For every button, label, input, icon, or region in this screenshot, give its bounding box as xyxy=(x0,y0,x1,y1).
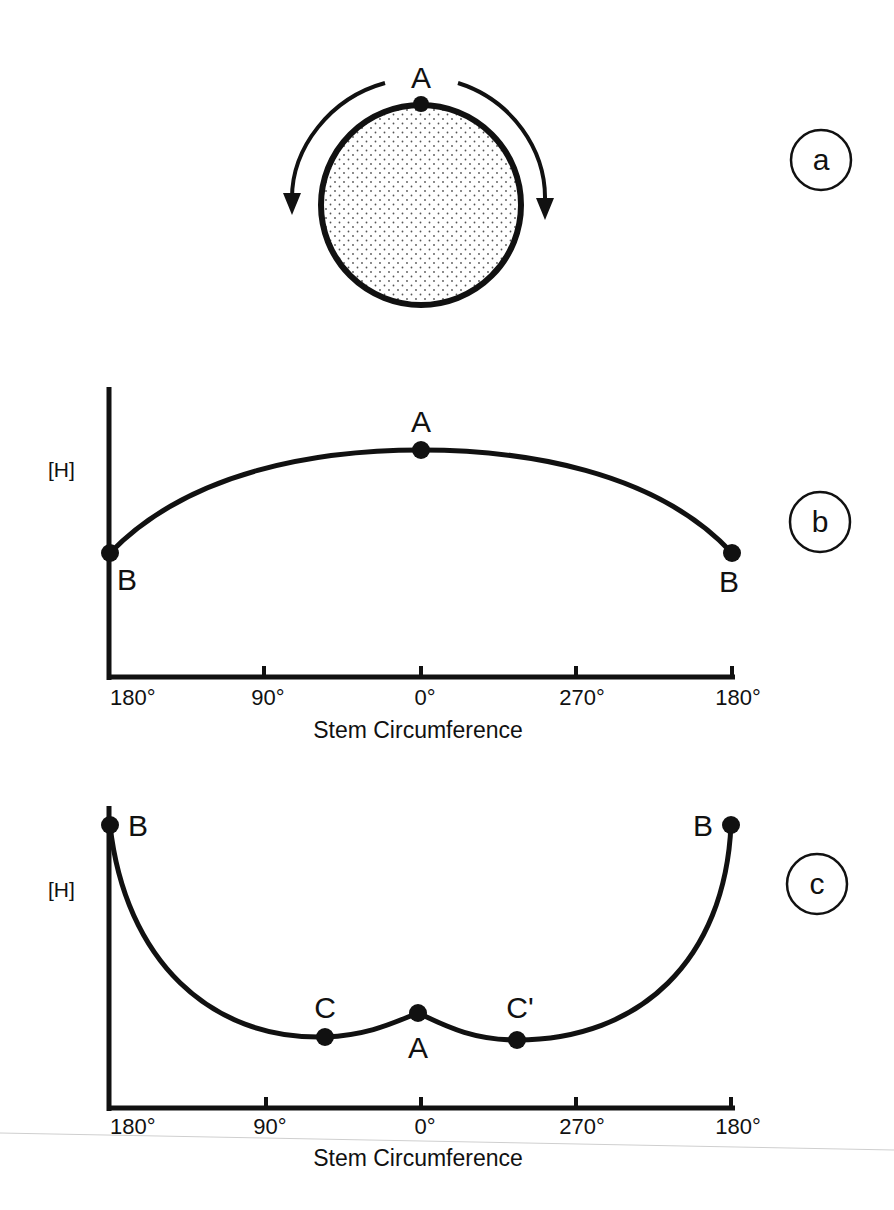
x-tick-label: 90° xyxy=(251,685,284,710)
point-a-marker xyxy=(412,441,430,459)
x-tick-label: 270° xyxy=(559,685,605,710)
x-axis-title-b: Stem Circumference xyxy=(313,717,523,743)
panel-label-a: a xyxy=(813,143,830,176)
x-tick-label: 0° xyxy=(414,1114,435,1139)
point-b-right-label: B xyxy=(693,809,713,842)
point-b-left-marker xyxy=(101,816,119,834)
x-tick-label: 180° xyxy=(715,1114,761,1139)
point-b-right-marker xyxy=(723,544,741,562)
point-a-label: A xyxy=(408,1031,428,1064)
point-c-prime-label: C' xyxy=(506,991,533,1024)
x-tick-label: 180° xyxy=(110,1114,156,1139)
panel-c: 180° 90° 0° 270° 180° Stem Circumference… xyxy=(48,806,847,1171)
panel-a: A a xyxy=(283,61,851,305)
figure-canvas: A a 180° 90° 0° 270° 180° Stem Circumfer… xyxy=(0,0,894,1210)
point-a-label: A xyxy=(411,405,431,438)
panel-label-b: b xyxy=(812,505,829,538)
point-b-left-label: B xyxy=(128,809,148,842)
point-b-right-marker xyxy=(722,816,740,834)
y-axis-label-c: [H] xyxy=(48,878,75,901)
h-profile-curve-b xyxy=(110,450,732,553)
x-tick-label: 90° xyxy=(253,1114,286,1139)
point-a-label: A xyxy=(411,61,431,94)
x-tick-label: 0° xyxy=(414,685,435,710)
panel-b: 180° 90° 0° 270° 180° Stem Circumference… xyxy=(48,387,850,743)
point-c-marker xyxy=(316,1028,334,1046)
point-c-prime-marker xyxy=(508,1031,526,1049)
point-b-right-label: B xyxy=(719,565,739,598)
y-axis-label-b: [H] xyxy=(48,458,75,481)
point-c-label: C xyxy=(314,991,336,1024)
panel-label-c: c xyxy=(810,867,825,900)
x-tick-label: 180° xyxy=(110,685,156,710)
x-tick-label: 270° xyxy=(559,1114,605,1139)
arrowhead-right-icon xyxy=(536,198,554,220)
point-a-marker xyxy=(409,1004,427,1022)
stem-cross-section xyxy=(321,105,521,305)
x-tick-label: 180° xyxy=(715,685,761,710)
x-axis-title-c: Stem Circumference xyxy=(313,1145,523,1171)
arrowhead-left-icon xyxy=(283,193,301,215)
point-a-marker xyxy=(413,96,429,112)
point-b-left-label: B xyxy=(117,563,137,596)
point-b-left-marker xyxy=(101,544,119,562)
